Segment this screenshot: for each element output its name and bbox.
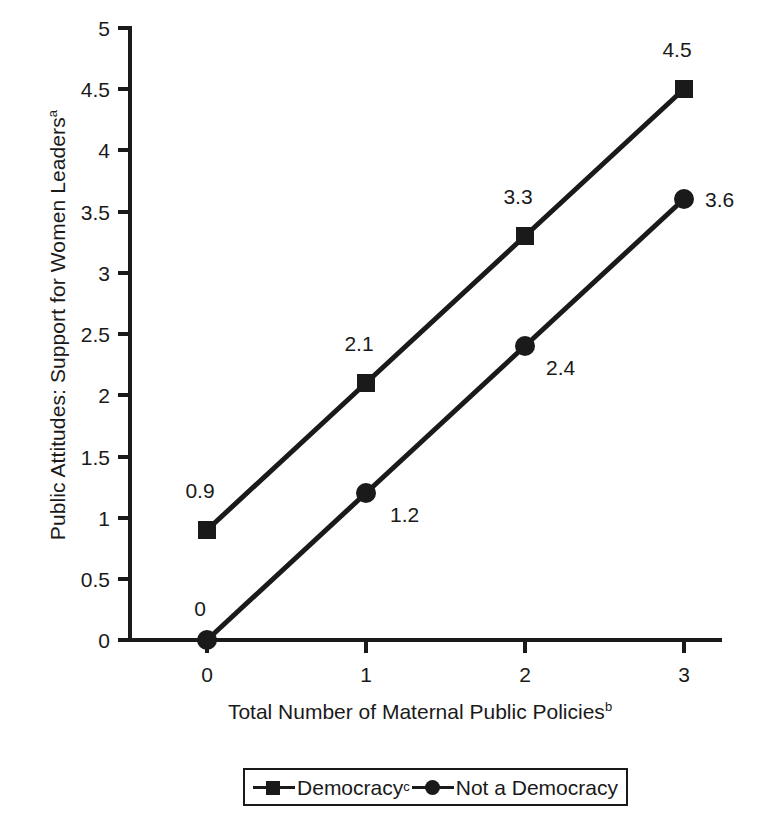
data-point-marker-square bbox=[357, 374, 375, 392]
legend-label-not-a-democracy: Not a Democracy bbox=[456, 777, 618, 798]
series-not-a-democracy-line bbox=[207, 199, 684, 640]
data-label: 4.5 bbox=[662, 38, 691, 61]
series-not-a-democracy bbox=[197, 189, 694, 650]
data-label: 3.3 bbox=[503, 185, 532, 208]
y-tick-label: 3.5 bbox=[81, 201, 110, 224]
x-axis-title-text: Total Number of Maternal Public Policies bbox=[228, 700, 605, 723]
legend-marker-square-icon bbox=[253, 777, 295, 797]
y-tick-label: 2 bbox=[98, 384, 110, 407]
legend-item-democracy[interactable]: Democracyc bbox=[253, 777, 410, 798]
y-tick-label: 5 bbox=[98, 17, 110, 40]
y-tick-label: 1.5 bbox=[81, 446, 110, 469]
data-point-marker-square bbox=[675, 80, 693, 98]
data-point-marker-square bbox=[516, 227, 534, 245]
y-tick-label: 3 bbox=[98, 262, 110, 285]
data-label: 2.4 bbox=[546, 356, 576, 379]
data-label: 3.6 bbox=[705, 188, 734, 211]
data-point-marker-square bbox=[198, 521, 216, 539]
series-democracy-line bbox=[207, 89, 684, 530]
data-label: 0.9 bbox=[185, 479, 214, 502]
y-tick-label: 2.5 bbox=[81, 323, 110, 346]
y-tick-label: 0.5 bbox=[81, 568, 110, 591]
y-tick-label: 4 bbox=[98, 139, 110, 162]
plot-area: 5 4.5 4 3.5 3 2.5 2 1.5 1 0.5 0 0 1 2 3 bbox=[0, 0, 772, 690]
chart-figure: Public Attitudes: Support for Women Lead… bbox=[0, 0, 772, 827]
x-tick-label: 0 bbox=[201, 663, 213, 686]
data-point-marker-circle bbox=[197, 630, 217, 650]
x-tick-label: 3 bbox=[678, 663, 690, 686]
data-label: 1.2 bbox=[390, 503, 419, 526]
x-axis-title-superscript: b bbox=[605, 699, 612, 714]
data-label: 2.1 bbox=[344, 332, 373, 355]
y-axis-tick-labels: 5 4.5 4 3.5 3 2.5 2 1.5 1 0.5 0 bbox=[81, 17, 111, 652]
x-axis-tick-labels: 0 1 2 3 bbox=[201, 663, 690, 686]
data-point-marker-circle bbox=[515, 336, 535, 356]
legend-marker-circle-icon bbox=[412, 777, 454, 797]
x-tick-label: 2 bbox=[519, 663, 531, 686]
chart-legend: Democracyc Not a Democracy bbox=[243, 768, 628, 806]
data-point-marker-circle bbox=[674, 189, 694, 209]
series-democracy bbox=[198, 80, 693, 539]
x-tick-label: 1 bbox=[360, 663, 372, 686]
legend-label-democracy: Democracy bbox=[297, 777, 403, 798]
y-tick-label: 0 bbox=[98, 629, 110, 652]
data-label: 0 bbox=[194, 597, 206, 620]
legend-item-not-a-democracy[interactable]: Not a Democracy bbox=[412, 777, 618, 798]
x-axis-title: Total Number of Maternal Public Policies… bbox=[130, 700, 710, 724]
data-point-marker-circle bbox=[356, 483, 376, 503]
y-tick-label: 4.5 bbox=[81, 78, 110, 101]
y-tick-label: 1 bbox=[98, 507, 110, 530]
series-democracy-data-labels: 0.9 2.1 3.3 4.5 bbox=[185, 38, 691, 502]
